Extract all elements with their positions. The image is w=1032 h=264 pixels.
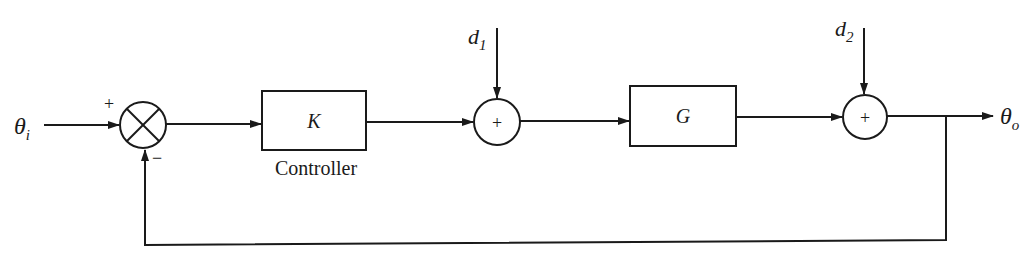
disturbance-2-label: d2 xyxy=(835,16,854,45)
plant-label: G xyxy=(676,105,691,127)
output-label: θo xyxy=(1000,103,1020,133)
plus-sign-3: + xyxy=(860,108,870,128)
summing-junction-1 xyxy=(120,102,166,148)
plus-sign-2: + xyxy=(492,113,502,133)
minus-sign-1: − xyxy=(152,148,162,168)
plus-sign-1: + xyxy=(104,94,114,114)
disturbance-1-label: d1 xyxy=(468,24,487,53)
block-diagram: θi + − K Controller d1 + G d2 + θo xyxy=(0,0,1032,264)
feedback-path xyxy=(145,116,946,245)
controller-caption: Controller xyxy=(275,157,358,179)
input-label: θi xyxy=(14,113,30,143)
controller-label: K xyxy=(306,110,322,132)
